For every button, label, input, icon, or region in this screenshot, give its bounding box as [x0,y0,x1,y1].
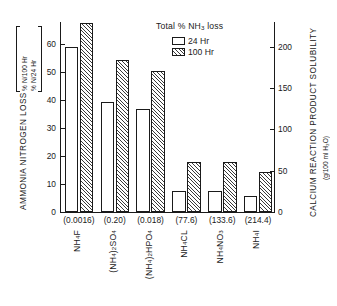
category-label: NH4F [73,230,82,252]
category-label: NH4NO3 [216,230,225,263]
bracket-right-glyph [38,26,42,92]
bar-100hr [80,23,94,212]
y-axis-right-tick-label: 100 [278,125,302,133]
bar-24hr [101,102,115,212]
y-axis-left-tick-label: 30 [34,124,56,132]
y-axis-right-tick [270,212,274,213]
y-axis-right-tick [270,129,274,130]
bar-24hr [136,109,150,212]
left-axis-unit-bottom: % N/100 Hr [20,27,29,91]
left-axis-unit-top: % N/24 Hr [29,27,38,91]
bar-100hr [187,162,201,212]
y-axis-left-tick-label: 0 [34,208,56,216]
right-axis-title: CALCIUM REACTION PRODUCT SOLUBILITY [310,22,318,217]
y-axis-right-tick-label: 50 [278,167,302,175]
legend-title-subscript: 3 [201,24,205,31]
legend-item-100-hr[interactable]: 100 Hr [172,48,223,57]
bar-24hr [208,191,222,213]
x-axis-line [60,212,275,213]
bar-24hr [65,47,79,212]
y-axis-left-tick [61,212,65,213]
y-axis-right-tick-label: 150 [278,84,302,92]
bar-100hr [151,71,165,212]
category-label: (NH4)2SO4 [109,230,118,273]
category-label: NH4CL [180,230,189,258]
bar-24hr [172,191,186,212]
y-axis-left-tick-label: 50 [34,68,56,76]
legend-swatch-open [172,37,185,45]
y-axis-left-tick [61,44,65,45]
y-axis-left-tick-label: 10 [34,180,56,188]
left-axis-units-lines: % N/100 Hr % N/24 Hr [20,26,38,92]
y-axis-right-line [274,22,275,213]
legend-title: Total % NH3 loss [156,22,223,32]
bar-100hr [259,172,273,212]
category-label: (NH4)2HPO4 [145,230,154,279]
legend-swatch-hatched [172,48,185,56]
right-axis-units: (g/100 ml H₂O) [322,60,329,180]
left-axis-units-bracket: % N/100 Hr % N/24 Hr [16,26,42,92]
y-axis-left-tick-label: 20 [34,152,56,160]
y-axis-left-tick-label: 40 [34,96,56,104]
legend-label: 100 Hr [188,48,214,57]
y-axis-right-tick [270,47,274,48]
bar-100hr [223,162,237,212]
legend: Total % NH3 loss 24 Hr100 Hr [150,22,223,60]
bar-chart: AMMONIA NITROGEN LOSS % N/100 Hr % N/24 … [0,0,337,306]
solubility-value: (214.4) [233,216,283,224]
y-axis-right-tick-label: 200 [278,43,302,51]
legend-label: 24 Hr [188,37,209,46]
bar-100hr [116,60,130,212]
category-label: NH4I [252,230,261,249]
legend-item-24-hr[interactable]: 24 Hr [172,37,223,46]
y-axis-left-tick-label: 60 [34,40,56,48]
y-axis-right-tick [270,88,274,89]
legend-entries: 24 Hr100 Hr [150,37,223,57]
bar-24hr [244,196,258,212]
